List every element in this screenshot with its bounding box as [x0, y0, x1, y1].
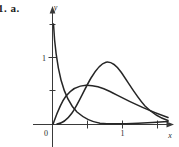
origin-label: 0: [44, 129, 48, 138]
y-tick-label-1: 1: [42, 54, 46, 63]
y-axis-group: [49, 6, 57, 147]
y-axis-label: y: [53, 3, 58, 12]
figure-page: 1. a. y x 0 1 1: [0, 0, 179, 147]
plot-figure: y x 0 1 1: [0, 0, 179, 147]
x-axis-label: x: [167, 131, 172, 140]
curves-group: [53, 24, 168, 124]
curve-low-broad-hump: [53, 85, 168, 124]
x-axis-arrowhead: [167, 122, 175, 128]
curve-steep-decay: [54, 24, 169, 124]
x-tick-label-1: 1: [121, 129, 125, 138]
